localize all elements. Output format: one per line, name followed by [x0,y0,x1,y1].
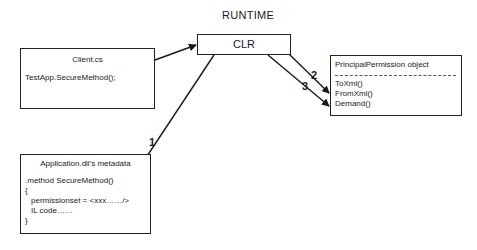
client-node: Client.cs TestApp.SecureMethod(); [20,48,155,109]
application-metadata-title: Application.dll's metadata [21,159,150,168]
method-demand: Demand() [335,99,461,109]
metadata-line-method: .method SecureMethod() [25,176,150,186]
application-metadata-node: Application.dll's metadata .method Secur… [20,154,151,234]
method-toxml: ToXml() [335,79,461,89]
edge-label-3: 3 [302,80,308,92]
metadata-line-close-brace: } [25,216,150,226]
edge-label-1: 1 [149,136,155,148]
clr-node: CLR [197,34,291,55]
client-title: Client.cs [21,55,154,64]
clr-label: CLR [198,35,290,54]
principal-permission-title: PrincipalPermission object [335,60,461,70]
metadata-line-open-brace: { [25,186,150,196]
client-code-line: TestApp.SecureMethod(); [25,72,154,83]
metadata-line-permissionset: permissionset = <xxx……/> [25,196,150,206]
principal-permission-node: PrincipalPermission object ToXml() FromX… [330,55,462,116]
metadata-line-il-code: IL code…… [25,206,150,216]
edge-label-2: 2 [311,69,317,81]
separator-divider [335,75,456,76]
method-fromxml: FromXml() [335,89,461,99]
arrow-client-to-clr [155,45,196,60]
arrow-2-clr-to-permission [289,54,329,93]
